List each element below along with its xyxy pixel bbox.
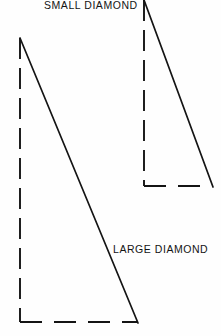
diagram-drawing <box>0 0 221 336</box>
large-diamond-triangle <box>20 38 138 323</box>
small-diamond-hypotenuse-solid <box>144 0 213 187</box>
diagram-canvas: SMALL DIAMOND LARGE DIAMOND <box>0 0 221 336</box>
small-diamond-triangle <box>144 0 213 187</box>
large-diamond-label: LARGE DIAMOND <box>113 244 208 255</box>
small-diamond-label: SMALL DIAMOND <box>44 0 138 11</box>
large-diamond-hypotenuse-solid <box>20 38 138 323</box>
